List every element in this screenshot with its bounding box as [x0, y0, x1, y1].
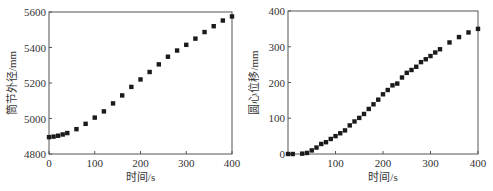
right-xtick-label: 300 [422, 157, 439, 169]
left-data-point [47, 135, 51, 139]
left-yaxis-label: 筒节外径/mm [5, 50, 18, 115]
right-yaxis-label: 圆心位移/mm [247, 50, 260, 115]
right-ytick-label: 400 [269, 5, 286, 17]
right-data-point [424, 57, 428, 61]
left-data-point [157, 62, 161, 66]
right-data-point [371, 102, 375, 106]
right-data-point [314, 145, 318, 149]
right-data-point [438, 47, 442, 51]
left-ytick-label: 5000 [24, 113, 47, 125]
left-data-point [138, 77, 142, 81]
right-xtick-label: 200 [375, 157, 392, 169]
right-ytick-label: 300 [269, 41, 286, 53]
right-plot-frame [288, 11, 478, 154]
right-data-point [381, 92, 385, 96]
right-ytick-label: 200 [269, 77, 286, 89]
left-data-point [120, 93, 124, 97]
left-data-point [202, 30, 206, 34]
left-data-point [56, 134, 60, 138]
left-data-point [65, 131, 69, 135]
left-data-point [51, 134, 55, 138]
chart-outer-diameter: 010020030040048005000520054005600时间/s筒节外… [0, 0, 246, 191]
right-data-point [405, 71, 409, 75]
right-data-point [291, 152, 295, 156]
right-data-point [400, 75, 404, 79]
left-xaxis-label: 时间/s [126, 171, 155, 183]
right-data-point [409, 68, 413, 72]
right-data-point [348, 123, 352, 127]
right-data-point [286, 152, 290, 156]
right-data-point [362, 112, 366, 116]
left-ytick-label: 5200 [24, 77, 47, 89]
right-ytick-label: 100 [269, 112, 286, 124]
left-ytick-label: 4800 [24, 148, 47, 160]
right-data-point [300, 151, 304, 155]
left-data-point [212, 24, 216, 28]
left-data-point [166, 55, 170, 59]
right-data-point [305, 151, 309, 155]
right-data-point [419, 60, 423, 64]
right-xtick-label: 100 [327, 157, 344, 169]
right-data-point [414, 65, 418, 69]
right-data-point [447, 40, 451, 44]
right-data-point [333, 134, 337, 138]
right-data-point [376, 97, 380, 101]
right-data-point [457, 35, 461, 39]
right-data-point [428, 54, 432, 58]
left-ytick-label: 5600 [24, 6, 47, 18]
left-data-point [129, 85, 133, 89]
right-data-point [329, 137, 333, 141]
left-ytick-label: 5400 [24, 42, 47, 54]
left-data-point [111, 101, 115, 105]
left-xtick-label: 100 [87, 157, 104, 169]
left-xtick-label: 0 [46, 157, 52, 169]
right-data-point [367, 107, 371, 111]
right-data-point [310, 148, 314, 152]
left-data-point [83, 122, 87, 126]
left-data-point [193, 36, 197, 40]
right-data-point [357, 116, 361, 120]
right-ytick-label: 0 [280, 148, 286, 160]
right-data-point [343, 128, 347, 132]
left-data-point [184, 43, 188, 47]
chart-center-displacement: 1002003004000100200300400时间/s圆心位移/mm [246, 0, 493, 191]
right-data-point [338, 131, 342, 135]
left-data-point [61, 132, 65, 136]
right-data-point [395, 81, 399, 85]
right-data-point [386, 88, 390, 92]
left-data-point [74, 127, 78, 131]
left-xtick-label: 300 [178, 157, 195, 169]
right-data-point [390, 83, 394, 87]
right-data-point [466, 30, 470, 34]
right-xtick-label: 400 [470, 157, 487, 169]
right-data-point [319, 142, 323, 146]
right-xaxis-label: 时间/s [368, 171, 397, 183]
left-xtick-label: 200 [132, 157, 149, 169]
right-data-point [324, 140, 328, 144]
left-data-point [230, 14, 234, 18]
left-data-point [221, 18, 225, 22]
right-data-point [352, 119, 356, 123]
left-xtick-label: 400 [224, 157, 241, 169]
left-data-point [93, 115, 97, 119]
left-data-point [175, 48, 179, 52]
left-data-point [147, 70, 151, 74]
right-data-point [476, 27, 480, 31]
left-data-point [102, 109, 106, 113]
right-data-point [433, 50, 437, 54]
